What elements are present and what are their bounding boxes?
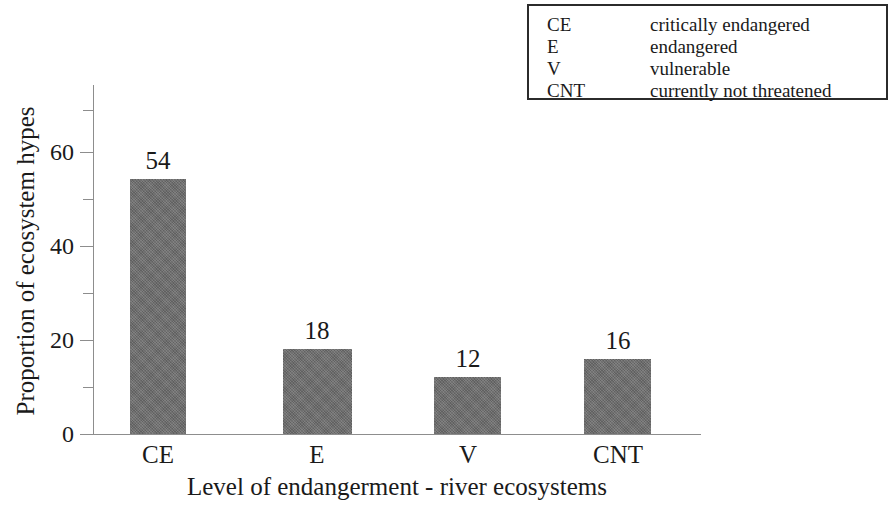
legend-row-cnt: CNT currently not threatened xyxy=(529,80,886,102)
bar-v[interactable] xyxy=(434,377,501,434)
legend-row-v: V vulnerable xyxy=(529,58,886,80)
legend-row-ce: CE critically endangered xyxy=(529,14,886,36)
legend-box: CE critically endangered E endangered V … xyxy=(527,4,888,100)
x-tick-label-ce: CE xyxy=(118,441,198,469)
x-axis-line xyxy=(93,434,701,435)
legend-desc-e: endangered xyxy=(650,36,738,58)
legend-abbr-ce: CE xyxy=(547,14,571,36)
bar-value-ce: 54 xyxy=(118,148,198,173)
bar-value-e: 18 xyxy=(277,318,357,343)
legend-abbr-v: V xyxy=(547,58,561,80)
bar-value-v: 12 xyxy=(428,346,508,371)
y-tick-60 xyxy=(80,152,94,153)
legend-desc-ce: critically endangered xyxy=(650,14,810,36)
y-tick-20 xyxy=(80,340,94,341)
y-tick-0 xyxy=(80,434,94,435)
bar-value-cnt: 16 xyxy=(578,328,658,353)
y-axis-title: Proportion of ecosystem hypes xyxy=(13,76,39,446)
legend-row-e: E endangered xyxy=(529,36,886,58)
bar-e[interactable] xyxy=(283,349,352,434)
y-tick-40 xyxy=(80,246,94,247)
x-tick-label-e: E xyxy=(277,441,357,469)
legend-abbr-cnt: CNT xyxy=(547,80,585,102)
legend-abbr-e: E xyxy=(547,36,559,58)
x-axis-title: Level of endangerment - river ecosystems xyxy=(93,473,701,501)
y-tick-10 xyxy=(83,387,94,388)
y-axis-line xyxy=(93,85,94,434)
bar-ce[interactable] xyxy=(130,179,186,434)
x-tick-label-cnt: CNT xyxy=(578,441,658,469)
y-tick-70 xyxy=(83,110,94,111)
bar-cnt[interactable] xyxy=(584,359,651,434)
y-tick-50 xyxy=(83,199,94,200)
chart-figure: 0 20 40 60 54 18 12 16 CE E V CNT Propor… xyxy=(0,0,890,507)
legend-desc-v: vulnerable xyxy=(650,58,730,80)
y-tick-30 xyxy=(83,293,94,294)
legend-desc-cnt: currently not threatened xyxy=(650,80,831,102)
x-tick-label-v: V xyxy=(428,441,508,469)
